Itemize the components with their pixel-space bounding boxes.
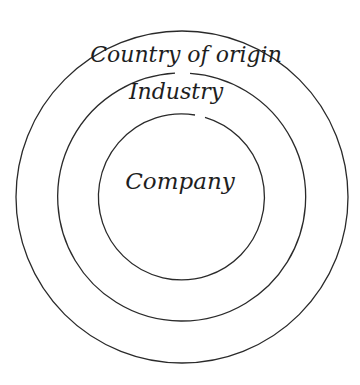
label-country-of-origin: Country of origin bbox=[90, 42, 282, 67]
ring-company bbox=[98, 114, 264, 280]
concentric-circles-diagram: Country of origin Industry Company bbox=[0, 0, 360, 385]
ring-industry bbox=[58, 73, 306, 321]
label-company: Company bbox=[125, 168, 236, 194]
label-industry: Industry bbox=[128, 79, 224, 104]
